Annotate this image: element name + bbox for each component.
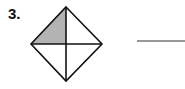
fraction-diagram (0, 0, 185, 89)
